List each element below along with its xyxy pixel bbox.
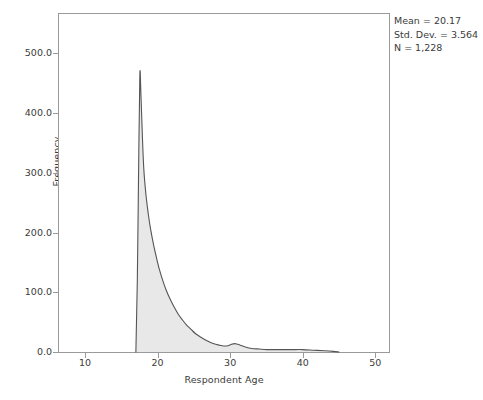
y-tick-label: 200.0 (8, 228, 52, 238)
statistics-annotation: Mean = 20.17 Std. Dev. = 3.564 N = 1,228 (394, 14, 478, 55)
y-tick-label: 400.0 (8, 108, 52, 118)
y-tick-label: 0.0 (8, 347, 52, 357)
std-dev-value: Std. Dev. = 3.564 (394, 28, 478, 42)
mean-value: Mean = 20.17 (394, 14, 478, 28)
y-axis-ticks: 0.0100.0200.0300.0400.0500.0 (0, 0, 52, 400)
sample-size-value: N = 1,228 (394, 41, 478, 55)
histogram-chart: Frequency 0.0100.0200.0300.0400.0500.0 1… (0, 0, 483, 400)
x-tick-label: 30 (210, 358, 250, 368)
x-tick-mark (375, 353, 376, 358)
plot-area (58, 13, 390, 353)
x-tick-mark (230, 353, 231, 358)
x-tick-label: 10 (65, 358, 105, 368)
x-tick-label: 50 (355, 358, 395, 368)
x-tick-label: 40 (283, 358, 323, 368)
x-axis-title: Respondent Age (58, 374, 390, 385)
x-tick-mark (85, 353, 86, 358)
distribution-curve (59, 14, 389, 352)
x-tick-mark (158, 353, 159, 358)
x-tick-mark (303, 353, 304, 358)
x-tick-label: 20 (138, 358, 178, 368)
y-tick-label: 100.0 (8, 287, 52, 297)
y-tick-label: 300.0 (8, 168, 52, 178)
y-tick-label: 500.0 (8, 48, 52, 58)
